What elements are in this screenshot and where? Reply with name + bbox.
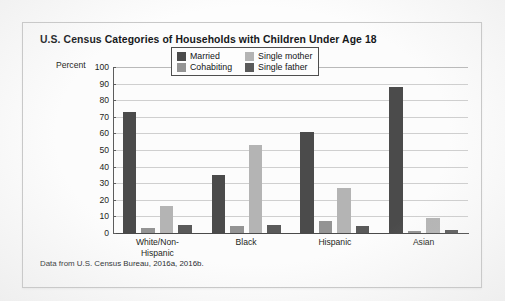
x-axis-category-label: White/Non-Hispanic [113,237,202,258]
bar [445,230,459,233]
x-axis-category-label: Black [202,237,291,248]
y-axis-tick-mark [113,233,116,234]
bar [123,112,137,233]
legend-item: Single father [245,62,312,72]
y-axis-tick-labels: 1009080706050403020100 [73,67,109,233]
y-axis-tick-label: 20 [99,195,109,205]
y-axis-tick-mark [113,117,116,118]
bar [337,188,351,233]
y-axis-tick-mark [113,100,116,101]
legend-item: Single mother [245,51,312,61]
legend-label: Single mother [258,51,312,61]
y-axis-tick-label: 60 [99,128,109,138]
y-axis-tick-mark [113,216,116,217]
bar [230,226,244,233]
legend-swatch [245,63,254,72]
bar [160,206,174,233]
y-axis-tick-label: 30 [99,178,109,188]
legend-label: Single father [258,62,307,72]
y-axis-tick-mark [113,183,116,184]
page-background: U.S. Census Categories of Households wit… [0,0,505,301]
y-axis-tick-mark [113,150,116,151]
bar [267,225,281,233]
y-axis-tick-label: 10 [99,211,109,221]
chart-legend: MarriedSingle motherCohabitingSingle fat… [171,47,319,76]
chart-title: U.S. Census Categories of Households wit… [40,34,377,45]
legend-swatch [177,63,186,72]
y-axis-tick-label: 100 [95,62,109,72]
bar [389,87,403,233]
bar [426,218,440,233]
bar [249,145,263,233]
y-axis-tick-label: 50 [99,145,109,155]
legend-label: Cohabiting [190,62,232,72]
y-axis-tick-mark [113,133,116,134]
y-axis-tick-label: 70 [99,112,109,122]
x-axis-category-label-line: Hispanic [113,248,202,259]
y-axis-tick-label: 40 [99,162,109,172]
legend-swatch [177,52,186,61]
x-axis-category-label-line: White/Non- [113,237,202,248]
legend-label: Married [190,51,220,61]
bar [319,221,333,233]
x-axis-category-label-line: Hispanic [291,237,380,248]
y-axis-tick-mark [113,67,116,68]
source-note: Data from U.S. Census Bureau, 2016a, 201… [40,259,204,268]
x-axis-category-label: Asian [379,237,468,248]
bar [212,175,226,233]
bar [408,231,422,233]
x-axis-category-label: Hispanic [291,237,380,248]
legend-item: Cohabiting [177,62,232,72]
legend-item: Married [177,51,232,61]
chart-card: U.S. Census Categories of Households wit… [22,22,482,288]
y-axis-tick-mark [113,200,116,201]
x-axis-category-label-line: Black [202,237,291,248]
y-axis-tick-label: 80 [99,95,109,105]
legend-swatch [245,52,254,61]
bar [356,226,370,233]
y-axis-tick-mark [113,84,116,85]
plot-area [113,67,468,233]
bar [300,132,314,233]
x-axis-line [113,233,469,234]
x-axis-category-label-line: Asian [379,237,468,248]
bar-series-container [113,67,468,233]
y-axis-tick-label: 90 [99,79,109,89]
y-axis-tick-label: 0 [104,228,109,238]
bar [141,228,155,233]
bar [178,225,192,233]
y-axis-tick-mark [113,167,116,168]
